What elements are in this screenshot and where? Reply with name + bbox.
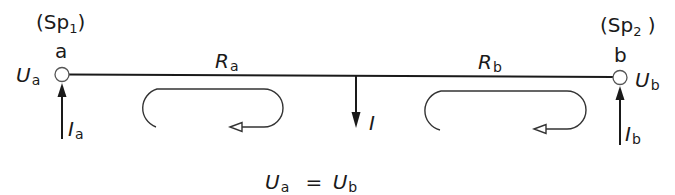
current-a-arrow-icon [58,83,67,139]
resistor-b-label: Rb [478,52,502,72]
node-b-name: b [614,45,627,65]
resistor-a-label: Ra [215,51,239,71]
voltage-a-label: Ua [16,65,40,85]
resistor-b-symbol: R [478,50,492,74]
circuit-diagram [0,0,675,195]
current-b-symbol: I [625,122,631,146]
current-b-arrow-icon [616,86,625,145]
resistor-a-symbol: R [215,49,229,73]
group-close: ) [77,10,85,34]
current-b-sub: b [632,131,641,147]
group-label-text: (Sp [600,13,633,37]
main-conductor-line [69,75,613,78]
voltage-a-symbol: U [16,63,31,87]
load-current-label: I [369,113,375,133]
group-label-text: (Sp [36,10,69,34]
node-a-terminal [55,68,69,82]
voltage-b-sub: b [651,77,660,93]
current-a-label: Ia [68,119,84,139]
voltage-b-label: Ub [635,70,660,90]
load-current-arrow-icon [352,76,361,128]
node-b-group-label: (Sp2 ) [600,15,656,35]
group-index: 1 [69,21,77,36]
equation-operator: = [306,170,323,194]
mesh-loop-a-icon [143,89,283,132]
current-a-symbol: I [68,117,74,141]
equation-rhs-symbol: U [333,170,348,194]
voltage-b-symbol: U [635,68,650,92]
current-b-label: Ib [625,124,641,144]
voltage-a-sub: a [32,72,41,88]
equation-rhs-sub: b [348,179,357,195]
equation-lhs-symbol: U [265,170,280,194]
node-a-group-label: (Sp1) [36,12,85,32]
equation: Ua = Ub [265,172,357,192]
mesh-loop-b-icon [425,91,586,134]
resistor-a-sub: a [230,58,239,74]
group-close: ) [641,13,655,37]
node-a-name: a [55,41,67,61]
current-a-sub: a [75,126,84,142]
group-index: 2 [633,24,641,39]
equation-lhs-sub: a [281,179,290,195]
resistor-b-sub: b [493,59,502,75]
node-b-terminal [613,71,627,85]
